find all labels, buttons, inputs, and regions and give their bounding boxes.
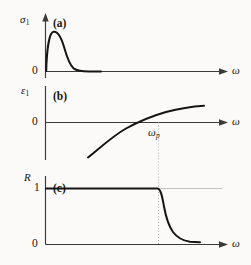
panel-a-y-axis-label: σ1 bbox=[20, 14, 29, 27]
panel-a-y-axis-subscript: 1 bbox=[26, 18, 30, 27]
panel-a-y-axis-arrow bbox=[42, 13, 48, 22]
panel-c-x-axis-arrow bbox=[219, 241, 228, 248]
panel-b-x-axis-label: ω bbox=[232, 116, 240, 127]
panel-b-y-axis-subscript: 1 bbox=[26, 89, 30, 98]
panel-a-tag: (a) bbox=[53, 18, 66, 30]
panel-a-y-axis-symbol: σ bbox=[20, 13, 25, 25]
panel-b-x-axis-arrow bbox=[219, 119, 228, 126]
panel-c-graphics bbox=[46, 176, 229, 248]
panel-c-y-axis-label: R bbox=[24, 172, 31, 183]
figure-canvas bbox=[0, 0, 251, 265]
panel-c-reflectance-curve bbox=[46, 189, 200, 243]
plasma-frequency-label: ωp bbox=[148, 127, 160, 140]
plasma-frequency-symbol: ω bbox=[148, 126, 156, 138]
panel-c-x-axis-label: ω bbox=[232, 238, 240, 249]
panel-b-y-axis-label: ε1 bbox=[21, 85, 29, 98]
panel-c-tag: (c) bbox=[53, 183, 66, 195]
panel-b-epsilon1-curve bbox=[88, 106, 204, 158]
drude-optical-response-figure: σ1 (a) 0 ω ε1 (b) 0 ω ωp R (c) 1 0 ω bbox=[0, 0, 251, 265]
panel-b-tick-zero: 0 bbox=[32, 116, 38, 128]
panel-a-x-axis-label: ω bbox=[232, 65, 240, 76]
panel-c-tick-zero: 0 bbox=[32, 238, 38, 250]
panel-b-tag: (b) bbox=[53, 91, 67, 103]
panel-b-y-axis-symbol: ε bbox=[21, 84, 25, 96]
plasma-frequency-subscript: p bbox=[156, 131, 160, 140]
panel-a-x-axis-arrow bbox=[219, 68, 228, 75]
panel-c-y-axis-symbol: R bbox=[24, 171, 31, 183]
panel-a-sigma1-curve bbox=[46, 32, 101, 72]
panel-a-tick-zero: 0 bbox=[32, 65, 38, 77]
panel-c-tick-one: 1 bbox=[34, 182, 40, 194]
panel-a-graphics bbox=[42, 13, 228, 78]
panel-b-graphics bbox=[46, 86, 229, 186]
